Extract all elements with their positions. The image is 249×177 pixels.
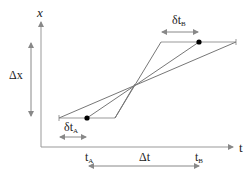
line-middle <box>87 42 199 118</box>
delta-t-b-label: δtB <box>172 13 186 28</box>
delta-t-label: Δt <box>139 150 151 164</box>
horizontal-axis-label: t <box>239 140 243 155</box>
delta-x-label: Δx <box>9 68 23 82</box>
t-a-label: tA <box>85 150 93 165</box>
line-shallow <box>59 42 236 118</box>
point-b <box>196 39 201 44</box>
vertical-axis-label: x <box>36 5 43 20</box>
point-a <box>84 115 89 120</box>
delta-t-a-label: δtA <box>64 120 78 135</box>
t-b-label: tB <box>195 150 203 165</box>
line-steep-ext <box>115 84 135 118</box>
diagram-canvas: x t Δx δtA δtB tA Δt tB <box>0 0 249 177</box>
